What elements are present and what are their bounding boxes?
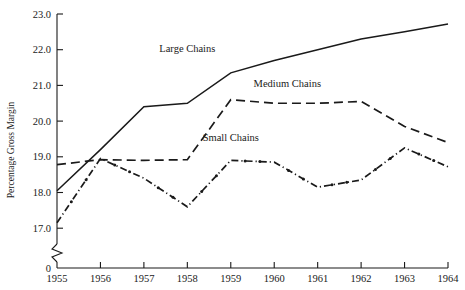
series-marker-dot bbox=[432, 159, 435, 162]
y-tick-label: 23.0 bbox=[33, 9, 51, 20]
y-tick-label: 17.0 bbox=[33, 223, 51, 234]
x-tick-label: 1955 bbox=[47, 273, 68, 284]
x-tick-label: 1960 bbox=[264, 273, 285, 284]
series-marker-dot bbox=[85, 178, 88, 181]
series-marker-dot bbox=[331, 183, 334, 186]
series-annotations: Large ChainsMedium ChainsSmall Chains bbox=[159, 43, 321, 143]
y-tick-label-zero: 0 bbox=[46, 263, 51, 274]
chart-container: Percentage Gross Margin 17.018.019.020.0… bbox=[0, 0, 465, 290]
y-axis-break-symbol bbox=[52, 244, 62, 262]
y-axis-label-text: Percentage Gross Margin bbox=[6, 102, 16, 199]
y-axis-ticks: 17.018.019.020.021.022.023.00 bbox=[33, 9, 63, 274]
x-tick-label: 1958 bbox=[177, 273, 198, 284]
x-tick-label: 1957 bbox=[133, 273, 154, 284]
series-marker-dot bbox=[157, 186, 160, 189]
series-marker-dot bbox=[374, 168, 377, 171]
series-marker-dot bbox=[345, 181, 348, 184]
series-marker-dot bbox=[417, 153, 420, 156]
data-series bbox=[57, 24, 448, 223]
series-marker-dot bbox=[215, 174, 218, 177]
y-tick-label: 22.0 bbox=[33, 44, 51, 55]
x-tick-label: 1956 bbox=[90, 273, 111, 284]
series-marker-dot bbox=[389, 157, 392, 160]
x-tick-label: 1964 bbox=[438, 273, 460, 284]
series-marker-dot bbox=[113, 164, 116, 167]
x-axis-ticks: 1955195619571958195919601961196219631964 bbox=[47, 262, 460, 284]
series-marker-dot bbox=[200, 190, 203, 193]
series-marker-dot bbox=[302, 177, 305, 180]
y-tick-label: 20.0 bbox=[33, 116, 51, 127]
series-marker-dot bbox=[287, 169, 290, 172]
series-marker-dot bbox=[70, 200, 73, 203]
x-tick-label: 1963 bbox=[394, 273, 415, 284]
x-tick-label: 1961 bbox=[307, 273, 328, 284]
y-tick-label: 21.0 bbox=[33, 80, 51, 91]
series-marker-dot bbox=[244, 159, 247, 162]
y-tick-label: 18.0 bbox=[33, 187, 51, 198]
series-label-medium-chains: Medium Chains bbox=[254, 78, 321, 89]
series-marker-dot bbox=[128, 170, 131, 173]
series-label-large-chains: Large Chains bbox=[159, 43, 215, 54]
x-tick-label: 1962 bbox=[351, 273, 372, 284]
series-marker-dot bbox=[258, 160, 261, 163]
y-tick-label: 19.0 bbox=[33, 151, 51, 162]
series-label-small-chains: Small Chains bbox=[203, 132, 259, 143]
y-axis-label: Percentage Gross Margin bbox=[6, 102, 16, 199]
line-chart: Percentage Gross Margin 17.018.019.020.0… bbox=[0, 0, 465, 290]
series-marker-dot bbox=[172, 196, 175, 199]
x-tick-label: 1959 bbox=[220, 273, 241, 284]
